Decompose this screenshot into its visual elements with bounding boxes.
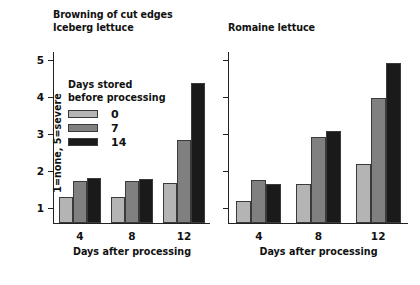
legend-items: 0714 bbox=[68, 107, 166, 149]
bar-14d-stored-12d-after bbox=[386, 63, 401, 223]
bar-7d-stored-4d-after bbox=[251, 180, 266, 223]
chart-title: Browning of cut edges bbox=[53, 8, 173, 21]
legend-row-14: 14 bbox=[68, 135, 166, 149]
y-tick-1: 1 bbox=[48, 208, 53, 209]
x-axis-ticks-left: 4812 bbox=[54, 224, 210, 242]
legend-swatch-14 bbox=[68, 138, 98, 146]
y-tick-1 bbox=[223, 208, 228, 209]
x-axis-ticks-right: 4812 bbox=[229, 224, 408, 242]
y-tick-3: 3 bbox=[48, 134, 53, 135]
y-tick-4: 4 bbox=[48, 97, 53, 98]
bar-14d-stored-4d-after bbox=[266, 184, 281, 223]
x-tick-label-4: 4 bbox=[236, 224, 282, 242]
bar-7d-stored-12d-after bbox=[371, 98, 386, 223]
bar-0d-stored-8d-after bbox=[111, 197, 125, 223]
bar-0d-stored-4d-after bbox=[236, 201, 251, 223]
y-tick-5 bbox=[223, 60, 228, 61]
legend-label-14: 14 bbox=[111, 136, 126, 149]
y-tick-label-1: 1 bbox=[37, 203, 44, 214]
bar-0d-stored-12d-after bbox=[163, 183, 177, 223]
panel-romaine-lettuce: Romaine lettuce 4812 Days after processi… bbox=[220, 0, 420, 285]
bar-7d-stored-8d-after bbox=[311, 137, 326, 223]
y-tick-label-5: 5 bbox=[37, 55, 44, 66]
x-axis-label-left: Days after processing bbox=[54, 246, 210, 257]
bar-7d-stored-8d-after bbox=[125, 181, 139, 223]
bar-14d-stored-4d-after bbox=[87, 178, 101, 223]
y-tick-4 bbox=[223, 97, 228, 98]
y-tick-3 bbox=[223, 134, 228, 135]
bar-group-8-days bbox=[296, 52, 341, 223]
x-tick-label-8: 8 bbox=[295, 224, 341, 242]
legend-row-0: 0 bbox=[68, 107, 166, 121]
bar-group-4-days bbox=[236, 52, 281, 223]
legend-title-line1: Days stored bbox=[68, 78, 166, 91]
y-tick-2: 2 bbox=[48, 171, 53, 172]
legend-swatch-0 bbox=[68, 110, 98, 118]
bar-group-12-days bbox=[356, 52, 401, 223]
y-tick-5: 5 bbox=[48, 60, 53, 61]
x-tick-label-8: 8 bbox=[109, 224, 155, 242]
x-axis-label-right: Days after processing bbox=[229, 246, 408, 257]
bar-7d-stored-12d-after bbox=[177, 140, 191, 223]
legend-label-7: 7 bbox=[111, 122, 119, 135]
legend: Days stored before processing 0714 bbox=[68, 78, 166, 149]
bar-0d-stored-4d-after bbox=[59, 197, 73, 223]
legend-label-0: 0 bbox=[111, 108, 119, 121]
bar-14d-stored-8d-after bbox=[326, 131, 341, 223]
y-tick-2 bbox=[223, 171, 228, 172]
left-panel-title: Browning of cut edges Iceberg lettuce bbox=[53, 8, 173, 34]
bar-14d-stored-8d-after bbox=[139, 179, 153, 223]
y-tick-label-4: 4 bbox=[37, 92, 44, 103]
plot-area-romaine: 4812 Days after processing bbox=[228, 52, 408, 224]
y-tick-label-3: 3 bbox=[37, 129, 44, 140]
right-panel-title: Romaine lettuce bbox=[228, 21, 315, 34]
bar-groups-romaine bbox=[229, 52, 408, 223]
bar-0d-stored-12d-after bbox=[356, 164, 371, 223]
x-tick-label-12: 12 bbox=[355, 224, 401, 242]
y-tick-label-2: 2 bbox=[37, 166, 44, 177]
figure-browning-of-cut-edges: Browning of cut edges Iceberg lettuce 1=… bbox=[0, 0, 420, 285]
bar-7d-stored-4d-after bbox=[73, 181, 87, 223]
legend-row-7: 7 bbox=[68, 121, 166, 135]
left-panel-subtitle: Iceberg lettuce bbox=[53, 21, 173, 34]
bar-0d-stored-8d-after bbox=[296, 184, 311, 223]
x-tick-label-12: 12 bbox=[161, 224, 207, 242]
x-tick-label-4: 4 bbox=[57, 224, 103, 242]
legend-title-line2: before processing bbox=[68, 91, 166, 104]
bar-14d-stored-12d-after bbox=[191, 83, 205, 223]
legend-swatch-7 bbox=[68, 124, 98, 132]
bar-group-12-days bbox=[163, 52, 205, 223]
panel-iceberg-lettuce: Browning of cut edges Iceberg lettuce 1=… bbox=[0, 0, 220, 285]
